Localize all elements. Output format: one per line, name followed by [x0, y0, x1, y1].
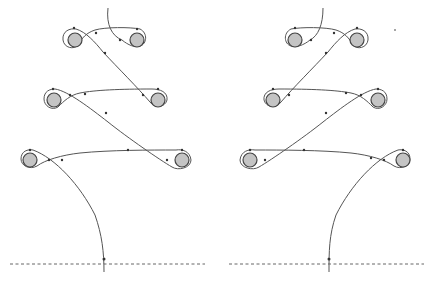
peg-row3-right — [396, 153, 410, 167]
right-direction-markers — [249, 27, 404, 261]
peg-row2-right — [151, 93, 165, 107]
peg-row3-left — [23, 153, 37, 167]
peg-row1-left — [68, 33, 82, 47]
peg-row1-right — [130, 33, 144, 47]
left-panel — [10, 8, 205, 272]
right-panel — [229, 8, 424, 272]
right-cord-path — [240, 8, 410, 272]
peg-row1-right — [350, 33, 364, 47]
peg-row1-left — [288, 33, 302, 47]
peg-row3-right — [175, 153, 189, 167]
peg-row2-right — [371, 93, 385, 107]
peg-row2-left — [47, 93, 61, 107]
left-direction-markers — [29, 27, 183, 261]
peg-row3-left — [243, 153, 257, 167]
lacing-diagram — [0, 0, 431, 282]
stray-mark — [394, 29, 396, 31]
left-cord-path — [21, 8, 191, 272]
peg-row2-left — [266, 93, 280, 107]
